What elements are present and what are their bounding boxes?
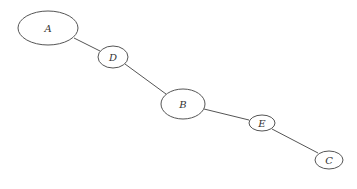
node-e[interactable]: E [249,115,275,131]
node-c-label: C [325,155,333,166]
node-a-label: A [43,23,51,34]
node-d[interactable]: D [98,46,128,68]
node-d-label: D [108,52,117,63]
graph-canvas: A D B E C [0,0,357,189]
edge-d-b [125,64,166,94]
nodes: A D B E C [18,11,343,169]
edge-b-e [204,109,249,120]
node-c[interactable]: C [315,151,343,169]
node-a[interactable]: A [18,11,78,45]
edge-a-d [74,38,100,51]
edge-e-c [272,129,318,153]
node-b[interactable]: B [161,89,205,119]
node-e-label: E [257,118,266,129]
node-b-label: B [178,99,186,110]
